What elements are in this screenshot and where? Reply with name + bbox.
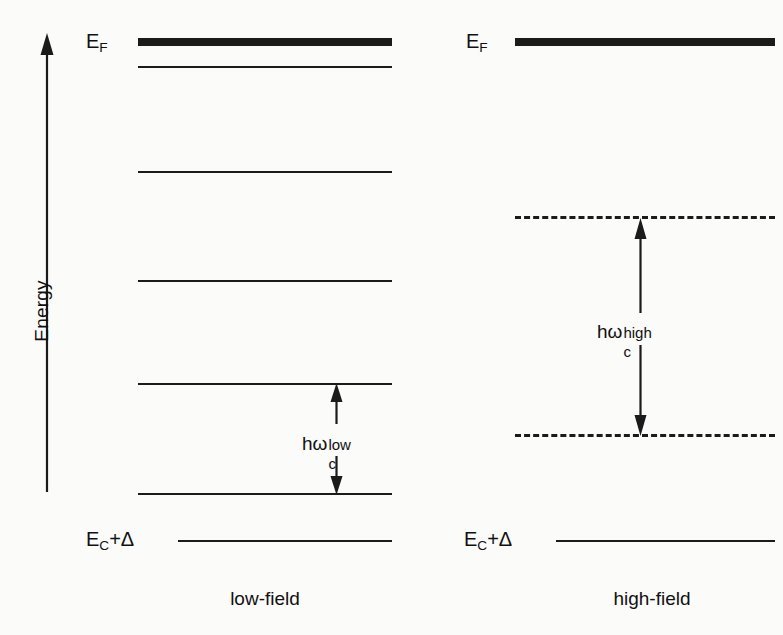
high-field-band-edge-label-sub: C: [477, 538, 487, 553]
low-field-cyclotron-energy-base: hω: [302, 433, 327, 454]
low-field-landau-level-4: [138, 171, 392, 173]
high-field-cyclotron-energy-sub: c: [623, 344, 631, 359]
energy-axis-label: Energy: [31, 251, 53, 371]
low-field-band-edge-label-text: E: [86, 528, 99, 550]
low-field-fermi-level: [138, 38, 392, 46]
high-field-band-edge-label-text: E: [464, 528, 477, 550]
low-field-landau-level-2: [138, 383, 392, 385]
low-field-caption: low-field: [165, 588, 365, 610]
low-field-cyclotron-energy-label: hωlowc: [302, 434, 327, 453]
low-field-cyclotron-energy-sub: c: [328, 456, 336, 471]
low-field-band-edge-level: [178, 540, 392, 542]
high-field-cyclotron-energy-sup: high: [623, 325, 651, 340]
low-field-landau-level-5: [138, 66, 392, 68]
high-field-fermi-level: [515, 38, 775, 46]
high-field-band-edge-label-rest: +Δ: [487, 528, 512, 550]
high-field-fermi-label-text: E: [466, 30, 479, 52]
high-field-band-edge-label: EC+Δ: [464, 529, 512, 552]
high-field-fermi-label: EF: [466, 31, 488, 54]
high-field-cyclotron-energy-base: hω: [597, 321, 622, 342]
low-field-fermi-label: EF: [86, 31, 108, 54]
low-field-cyclotron-energy-sup: low: [328, 437, 351, 452]
low-field-fermi-label-sub: F: [99, 40, 107, 55]
low-field-band-edge-label-sub: C: [99, 538, 109, 553]
low-field-band-edge-label-rest: +Δ: [109, 528, 134, 550]
low-field-landau-level-3: [138, 280, 392, 282]
high-field-caption: high-field: [552, 588, 752, 610]
high-field-band-edge-level: [556, 540, 775, 542]
low-field-landau-level-1: [138, 493, 392, 495]
low-field-fermi-label-text: E: [86, 30, 99, 52]
high-field-cyclotron-energy-label: hωhighc: [597, 322, 622, 341]
high-field-fermi-label-sub: F: [479, 40, 487, 55]
landau-level-diagram: Energy EF EC+Δ: [0, 0, 783, 635]
low-field-band-edge-label: EC+Δ: [86, 529, 134, 552]
